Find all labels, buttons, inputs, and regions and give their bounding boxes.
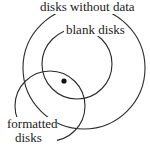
venn-diagram: disks without data blank disks formatted… <box>0 0 150 150</box>
formatted-disks-label-line1: formatted <box>7 116 58 131</box>
formatted-disks-label-line2: disks <box>15 130 42 145</box>
blank-disks-label: blank disks <box>66 22 125 37</box>
element-point <box>61 78 66 83</box>
disks-without-data-label: disks without data <box>40 0 135 14</box>
blank-disks-circle <box>42 29 112 99</box>
